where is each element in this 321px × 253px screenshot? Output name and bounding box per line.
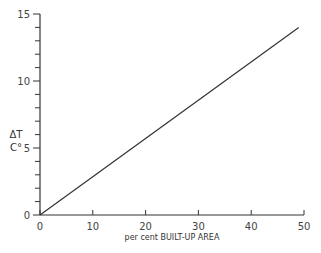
x-tick-label: 10	[86, 221, 99, 232]
x-tick-label: 0	[37, 221, 43, 232]
x-axis-title: per cent BUILT-UP AREA	[125, 233, 220, 242]
y-axis-title-line2: C°	[10, 142, 22, 153]
y-tick-label: 10	[17, 76, 30, 87]
y-tick-label: 15	[17, 9, 30, 20]
y-tick-label: 0	[24, 210, 30, 221]
x-tick-label: 20	[139, 221, 152, 232]
data-line	[40, 27, 299, 215]
y-tick-label: 5	[24, 143, 30, 154]
x-tick-label: 50	[298, 221, 311, 232]
axes	[40, 14, 304, 215]
x-tick-label: 30	[192, 221, 205, 232]
x-tick-label: 40	[245, 221, 258, 232]
y-axis-title-line1: ΔT	[10, 129, 24, 140]
chart: 01020304050051015 per cent BUILT-UP AREA…	[0, 0, 321, 253]
ticks	[33, 14, 304, 215]
tick-labels: 01020304050051015	[17, 9, 310, 232]
